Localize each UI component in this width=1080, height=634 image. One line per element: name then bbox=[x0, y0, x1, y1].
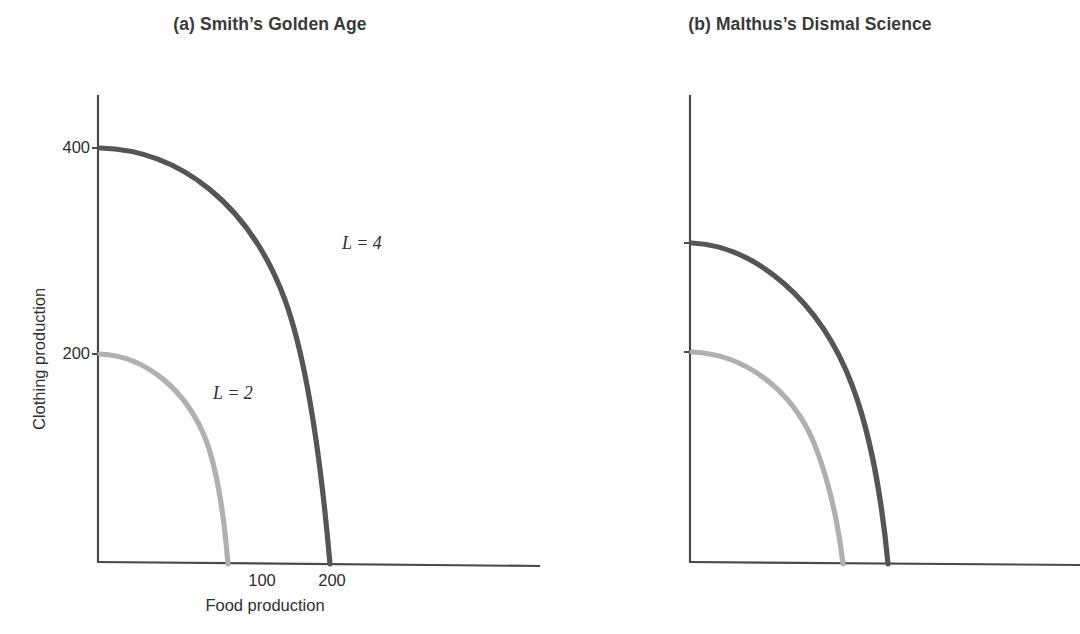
panel-b-curve-L2 bbox=[692, 352, 843, 564]
panel-a-curve-L4 bbox=[100, 148, 330, 564]
panel-b-plot bbox=[540, 0, 1080, 634]
panel-a-curve-label-L4: L = 4 bbox=[342, 233, 382, 254]
panel-a-curve-label-L4-text: L = 4 bbox=[342, 233, 382, 253]
panel-a-xtick-label-100: 100 bbox=[232, 571, 292, 590]
panel-a-ytick-label-400: 400 bbox=[20, 138, 90, 157]
panel-a-x-axis-label: Food production bbox=[170, 596, 360, 615]
panel-a-curve-L2 bbox=[100, 354, 228, 564]
panel-b-x-axis bbox=[689, 562, 1080, 565]
panel-a-x-axis bbox=[97, 562, 540, 566]
chart-panel-a: (a) Smith’s Golden Age Clothing producti… bbox=[0, 0, 540, 634]
chart-panel-b: (b) Malthus’s Dismal Science Clothing pr… bbox=[540, 0, 1080, 634]
panel-a-ytick-label-200: 200 bbox=[20, 344, 90, 363]
panel-a-curve-label-L2: L = 2 bbox=[213, 383, 253, 404]
panel-a-xtick-label-200: 200 bbox=[302, 571, 362, 590]
panel-a-curve-label-L2-text: L = 2 bbox=[213, 383, 253, 403]
figure-canvas: (a) Smith’s Golden Age Clothing producti… bbox=[0, 0, 1080, 634]
panel-a-plot bbox=[0, 0, 540, 634]
